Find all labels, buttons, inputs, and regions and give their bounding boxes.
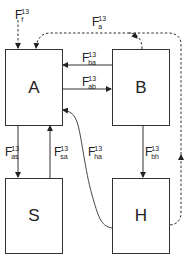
flux-label-as: F13as — [5, 146, 19, 158]
compartment-s: S — [5, 178, 63, 254]
compartment-b: B — [112, 49, 170, 126]
flux-label-ha: F13ha — [88, 146, 102, 158]
compartment-a: A — [5, 49, 63, 126]
arrow-f-ha — [63, 110, 112, 228]
compartment-s-label: S — [6, 206, 62, 226]
flux-label-f: F13f — [15, 9, 23, 21]
compartment-h-label: H — [113, 206, 169, 226]
compartment-b-label: B — [113, 78, 169, 98]
flux-label-sa: F13sa — [54, 146, 68, 158]
flux-label-a: F13a — [92, 16, 102, 28]
compartment-a-label: A — [6, 78, 62, 98]
flux-label-bh: F13bh — [145, 146, 159, 158]
flux-label-ba: F13ba — [82, 52, 96, 64]
flux-label-ab: F13ab — [82, 76, 96, 88]
arrow-f-a — [36, 33, 142, 49]
compartment-h: H — [112, 178, 170, 254]
